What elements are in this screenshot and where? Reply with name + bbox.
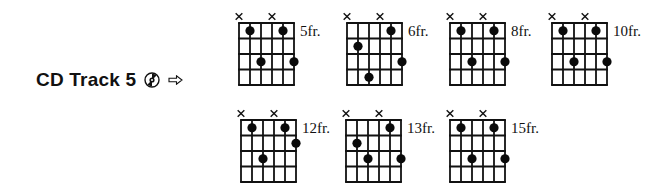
cd-track-label: CD Track 5 xyxy=(36,69,136,91)
fret-position-label: 12fr. xyxy=(302,120,330,137)
finger-dot xyxy=(289,57,298,66)
finger-dot xyxy=(591,26,600,35)
finger-dot xyxy=(353,42,362,51)
fret-position-label: 13fr. xyxy=(407,120,435,137)
fretboard-grid xyxy=(450,120,505,182)
muted-string-x-icon xyxy=(377,13,384,20)
finger-dot xyxy=(467,57,476,66)
finger-dot xyxy=(569,57,578,66)
finger-dot xyxy=(280,123,289,132)
finger-dot xyxy=(245,26,254,35)
fret-position-label: 10fr. xyxy=(613,23,641,40)
finger-dot xyxy=(500,154,509,163)
fretboard-grid xyxy=(346,120,401,182)
finger-dot xyxy=(558,26,567,35)
finger-dot xyxy=(291,139,300,148)
finger-dot xyxy=(385,123,394,132)
chord-diagram xyxy=(347,23,402,85)
fret-position-label: 15fr. xyxy=(511,120,539,137)
fretboard-grid xyxy=(241,120,296,182)
finger-dot xyxy=(467,154,476,163)
muted-string-x-icon xyxy=(376,110,383,117)
muted-string-x-icon xyxy=(582,13,589,20)
finger-dot xyxy=(352,139,361,148)
muted-string-x-icon xyxy=(236,13,243,20)
muted-string-x-icon xyxy=(238,110,245,117)
muted-string-x-icon xyxy=(269,13,276,20)
chord-diagram xyxy=(450,23,505,85)
chord-diagram xyxy=(346,120,401,182)
muted-string-x-icon xyxy=(480,13,487,20)
finger-dot xyxy=(386,26,395,35)
right-arrow-icon xyxy=(168,75,183,85)
finger-dot xyxy=(247,123,256,132)
finger-dot xyxy=(258,154,267,163)
cd-disc-icon xyxy=(144,72,160,88)
fret-position-label: 5fr. xyxy=(300,23,320,40)
muted-string-x-icon xyxy=(344,13,351,20)
fret-position-label: 8fr. xyxy=(511,23,531,40)
finger-dot xyxy=(278,26,287,35)
chord-diagram xyxy=(241,120,296,182)
finger-dot xyxy=(602,57,611,66)
fretboard-grid xyxy=(347,23,402,85)
fretboard-grid xyxy=(239,23,294,85)
finger-dot xyxy=(500,57,509,66)
muted-string-x-icon xyxy=(447,13,454,20)
finger-dot xyxy=(256,57,265,66)
muted-string-x-icon xyxy=(549,13,556,20)
cd-track-reference: CD Track 5 xyxy=(36,71,183,89)
finger-dot xyxy=(397,57,406,66)
muted-string-x-icon xyxy=(271,110,278,117)
finger-dot xyxy=(456,26,465,35)
finger-dot xyxy=(396,154,405,163)
finger-dot xyxy=(364,73,373,82)
finger-dot xyxy=(489,26,498,35)
chord-diagram xyxy=(450,120,505,182)
muted-string-x-icon xyxy=(480,110,487,117)
muted-string-x-icon xyxy=(343,110,350,117)
fret-position-label: 6fr. xyxy=(408,23,428,40)
fretboard-grid xyxy=(552,23,607,85)
finger-dot xyxy=(489,123,498,132)
muted-string-x-icon xyxy=(447,110,454,117)
finger-dot xyxy=(456,123,465,132)
chord-diagram xyxy=(239,23,294,85)
chord-diagram xyxy=(552,23,607,85)
finger-dot xyxy=(363,154,372,163)
fretboard-grid xyxy=(450,23,505,85)
